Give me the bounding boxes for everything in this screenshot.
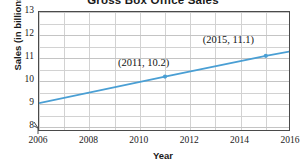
x-tick-label: 2008	[66, 135, 110, 145]
point-annotation: (2011, 10.2)	[118, 57, 169, 68]
chart-container: Gross Box Office Sales Sales (in billion…	[0, 0, 306, 165]
x-tick-label: 2014	[218, 135, 262, 145]
point-annotation: (2015, 11.1)	[203, 34, 254, 45]
chart-title: Gross Box Office Sales	[0, 0, 306, 6]
series-layer	[39, 12, 290, 131]
x-tick-label: 2016	[268, 135, 306, 145]
y-tick-label: 8	[4, 121, 34, 130]
y-tick-label: 12	[4, 29, 34, 38]
y-axis-break-icon	[31, 118, 45, 134]
y-tick-label: 11	[4, 52, 34, 61]
data-point-marker	[264, 54, 268, 58]
y-tick-label: 9	[4, 98, 34, 107]
x-tick-label: 2012	[167, 135, 211, 145]
y-tick-labels: 8910111213	[0, 11, 34, 131]
plot-area	[38, 11, 290, 131]
data-point-marker	[289, 49, 290, 53]
y-tick-label: 13	[4, 6, 34, 15]
x-tick-labels: 200620082010201220142016	[38, 135, 290, 149]
x-tick-label: 2006	[16, 135, 60, 145]
y-tick-label: 10	[4, 75, 34, 84]
x-tick-label: 2010	[117, 135, 161, 145]
data-point-marker	[163, 75, 167, 79]
x-axis-label: Year	[38, 150, 288, 161]
